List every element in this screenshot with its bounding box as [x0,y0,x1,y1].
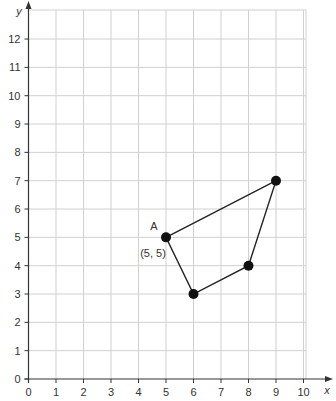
tick-labels: 0123456789100123456789101112xy [8,5,330,398]
x-tick-label: 6 [190,386,196,398]
y-tick-label: 6 [14,203,20,215]
grid-lines [29,10,307,379]
y-tick-label: 5 [14,231,20,243]
x-tick-label: 0 [25,386,31,398]
x-tick-label: 9 [273,386,279,398]
data-point [271,176,281,186]
y-tick-label: 4 [14,260,20,272]
y-tick-label: 1 [14,345,20,357]
x-tick-label: 10 [297,386,309,398]
data-point [189,289,199,299]
x-tick-label: 7 [218,386,224,398]
y-tick-label: 0 [14,373,20,385]
x-tick-label: 5 [163,386,169,398]
x-tick-label: 4 [135,386,141,398]
y-tick-label: 2 [14,316,20,328]
data-point [161,232,171,242]
y-tick-label: 9 [14,118,20,130]
y-tick-label: 11 [9,61,20,73]
x-axis-label: x [323,384,330,396]
data-point [244,261,254,271]
x-tick-label: 2 [80,386,86,398]
x-axis-arrow-icon [325,376,333,382]
y-axis-arrow-icon [26,1,32,9]
y-axis-label: y [15,5,23,17]
x-tick-label: 8 [245,386,251,398]
point-coordinate-label: (5, 5) [140,247,166,259]
axes [25,1,334,383]
point-label-a: A [150,220,158,232]
x-tick-label: 1 [53,386,59,398]
y-tick-label: 8 [14,146,20,158]
y-tick-label: 7 [14,175,20,187]
x-tick-label: 3 [108,386,114,398]
coordinate-grid-chart: 0123456789100123456789101112xy A(5, 5) [0,0,336,401]
y-tick-label: 3 [14,288,20,300]
y-tick-label: 10 [8,90,20,102]
y-tick-label: 12 [8,33,20,45]
